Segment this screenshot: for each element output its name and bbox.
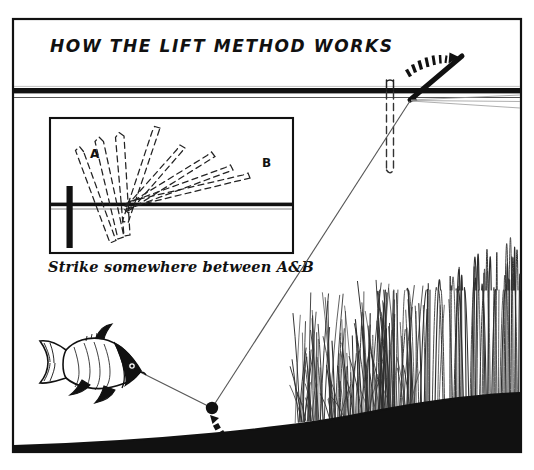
inset-panel: A B [50,118,293,253]
illustration-canvas: HOW THE LIFT METHOD WORKS [0,0,534,470]
reed-stalk [499,290,500,398]
page-title: HOW THE LIFT METHOD WORKS [50,36,394,56]
inset-border [50,118,293,253]
lead-shot-icon [206,402,218,414]
label-a: A [90,147,100,161]
label-b: B [262,156,271,170]
reed-stalk [509,280,510,397]
float-icon [67,186,73,248]
inset-caption: Strike somewhere between A&B [48,258,314,275]
reed-stalk [427,289,428,407]
lift-method-illustration: HOW THE LIFT METHOD WORKS [0,0,534,470]
